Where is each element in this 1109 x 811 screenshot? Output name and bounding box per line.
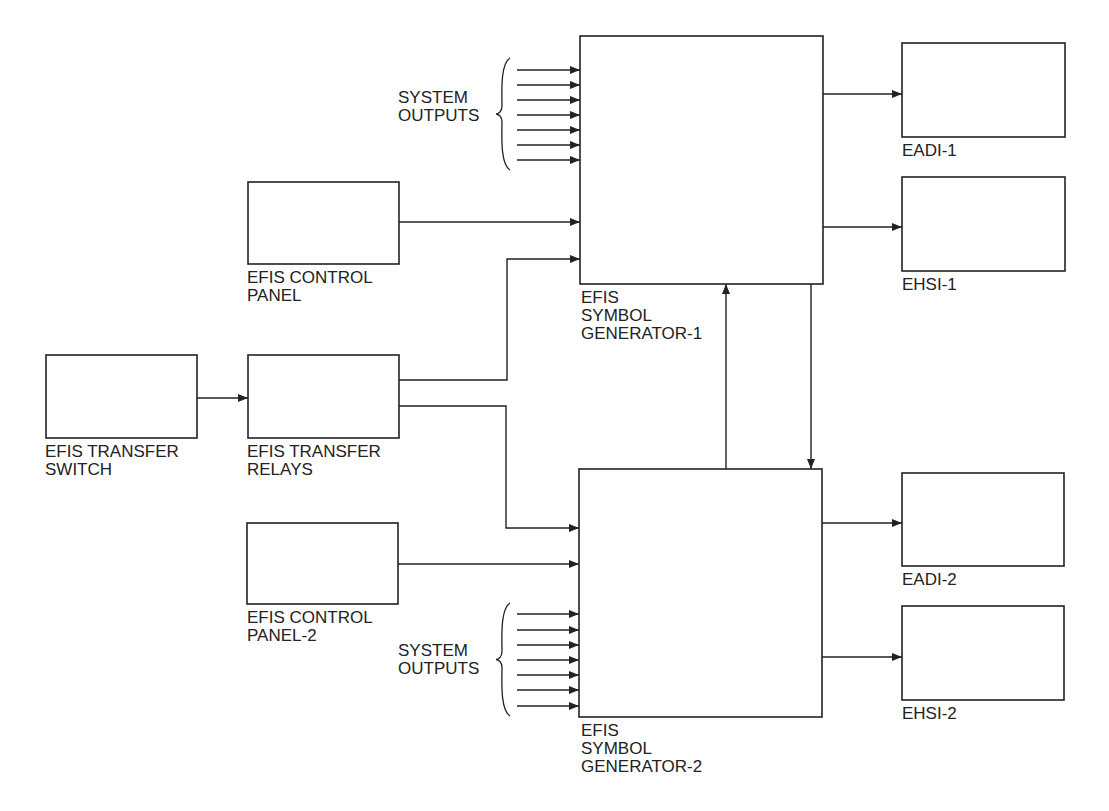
blocks: EFISSYMBOLGENERATOR-1EFISSYMBOLGENERATOR… [45, 36, 1065, 776]
ehsi-2-box [902, 606, 1064, 700]
efis-symbol-generator-2-box [579, 469, 822, 717]
eadi-1: EADI-1 [902, 43, 1065, 160]
efis-symbol-generator-1: EFISSYMBOLGENERATOR-1 [580, 36, 823, 343]
brace-icon [496, 603, 510, 716]
relays-to-sg1-arrow [399, 259, 580, 380]
efis-symbol-generator-1-label: SYMBOL [581, 306, 652, 325]
efis-transfer-relays-label: EFIS TRANSFER [247, 442, 381, 461]
efis-control-panel-2-label: EFIS CONTROL [247, 608, 373, 627]
efis-control-panel-1-box [248, 182, 399, 264]
system-outputs-2-label: OUTPUTS [398, 659, 479, 678]
brace-icon [496, 58, 510, 170]
efis-symbol-generator-2-label: EFIS [581, 721, 619, 740]
system-outputs-2-label: SYSTEM [398, 641, 468, 660]
system-outputs-groups: SYSTEMOUTPUTSSYSTEMOUTPUTS [398, 58, 580, 716]
efis-symbol-generator-1-box [580, 36, 823, 284]
ehsi-2: EHSI-2 [902, 606, 1064, 723]
ehsi-1: EHSI-1 [902, 177, 1065, 294]
efis-control-panel-1-label: PANEL [247, 286, 302, 305]
efis-control-panel-1: EFIS CONTROLPANEL [247, 182, 399, 305]
system-outputs-2: SYSTEMOUTPUTS [398, 603, 579, 716]
efis-symbol-generator-2: EFISSYMBOLGENERATOR-2 [579, 469, 822, 776]
ehsi-1-label: EHSI-1 [902, 275, 957, 294]
efis-transfer-switch-label: EFIS TRANSFER [45, 442, 179, 461]
eadi-2-label: EADI-2 [902, 570, 957, 589]
efis-symbol-generator-2-label: SYMBOL [581, 739, 652, 758]
efis-transfer-switch-label: SWITCH [45, 460, 112, 479]
efis-symbol-generator-1-label: GENERATOR-1 [581, 324, 702, 343]
eadi-2: EADI-2 [902, 473, 1064, 589]
relays-to-sg2-arrow [399, 406, 579, 528]
efis-control-panel-2: EFIS CONTROLPANEL-2 [247, 523, 398, 645]
efis-transfer-relays-label: RELAYS [247, 460, 313, 479]
efis-control-panel-2-box [247, 523, 398, 604]
efis-control-panel-2-label: PANEL-2 [247, 626, 317, 645]
efis-transfer-switch-box [46, 355, 197, 438]
ehsi-2-label: EHSI-2 [902, 704, 957, 723]
efis-transfer-relays: EFIS TRANSFERRELAYS [247, 355, 399, 479]
efis-symbol-generator-2-label: GENERATOR-2 [581, 757, 702, 776]
efis-transfer-switch: EFIS TRANSFERSWITCH [45, 355, 197, 479]
eadi-2-box [902, 473, 1064, 566]
eadi-1-box [902, 43, 1065, 137]
efis-control-panel-1-label: EFIS CONTROL [247, 268, 373, 287]
system-outputs-1: SYSTEMOUTPUTS [398, 58, 580, 170]
efis-symbol-generator-1-label: EFIS [581, 288, 619, 307]
eadi-1-label: EADI-1 [902, 141, 957, 160]
system-outputs-1-label: OUTPUTS [398, 106, 479, 125]
efis-block-diagram: SYSTEMOUTPUTSSYSTEMOUTPUTS EFISSYMBOLGEN… [0, 0, 1109, 811]
efis-transfer-relays-box [248, 355, 399, 438]
ehsi-1-box [902, 177, 1065, 271]
system-outputs-1-label: SYSTEM [398, 88, 468, 107]
